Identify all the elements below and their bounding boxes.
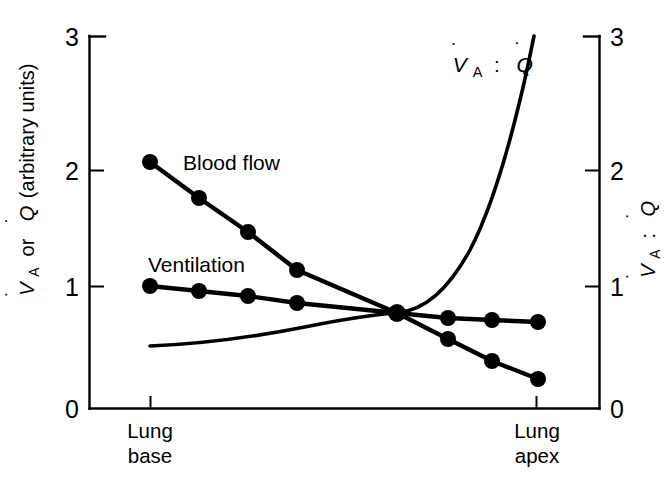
svg-text:˙ V A: ˙ V A : ˙ Q xyxy=(623,201,664,279)
blood-flow-point xyxy=(142,154,158,170)
right-tick-label-1: 1 xyxy=(610,273,624,301)
left-axis-ticks xyxy=(90,171,105,287)
ventilation-point xyxy=(440,310,456,326)
ventilation-point xyxy=(240,288,256,304)
left-tick-label-2: 2 xyxy=(65,157,79,185)
left-tick-label-3: 3 xyxy=(65,23,79,51)
blood-flow-point xyxy=(530,371,546,387)
curve-label-q: Q xyxy=(516,53,532,76)
right-tick-labels: 3 2 1 0 xyxy=(610,23,624,423)
x-label-lung-base-line1: Lung xyxy=(127,419,173,442)
x-axis-ticks xyxy=(151,396,537,409)
left-axis-title-v-sub: A xyxy=(26,267,42,277)
left-axis-title-connector: or xyxy=(16,233,38,262)
left-axis-title-q: Q xyxy=(16,206,38,222)
blood-flow-point xyxy=(240,224,256,240)
x-label-lung-apex-line2: apex xyxy=(515,444,560,467)
x-label-lung-apex-line1: Lung xyxy=(514,419,560,442)
ventilation-point xyxy=(191,283,207,299)
right-tick-label-2: 2 xyxy=(610,157,624,185)
svg-text:˙ V A: ˙ V A : ˙ Q xyxy=(451,38,533,81)
left-axis-title-units: (arbitrary units) xyxy=(16,64,38,198)
curve-label-colon: : xyxy=(488,53,506,76)
right-tick-label-0: 0 xyxy=(610,395,624,423)
ventilation-point xyxy=(289,295,305,311)
series-ventilation xyxy=(142,278,546,330)
blood-flow-point xyxy=(289,262,305,278)
curve-label-v: V xyxy=(453,53,469,76)
left-tick-label-1: 1 xyxy=(65,273,79,301)
ratio-curve-va-q xyxy=(150,36,534,346)
svg-text:˙ V A: ˙ V A or ˙ Q (arbitrary units) xyxy=(2,64,43,297)
left-tick-labels: 3 2 1 0 xyxy=(65,23,79,423)
ventilation-point xyxy=(484,312,500,328)
left-axis-title: ˙ V A or ˙ Q (arbitrary units) xyxy=(2,64,43,297)
left-tick-label-0: 0 xyxy=(65,395,79,423)
right-axis-ticks xyxy=(585,171,600,287)
curve-label-v-sub: A xyxy=(473,64,483,80)
x-category-labels: Lung base Lung apex xyxy=(127,419,560,467)
ventilation-point xyxy=(530,314,546,330)
left-axis-title-v: V xyxy=(16,281,38,296)
annotation-ratio-curve: ˙ V A : ˙ Q xyxy=(451,38,533,81)
right-axis-title-q: Q xyxy=(637,201,659,217)
right-axis-title-colon: : xyxy=(637,227,659,244)
x-label-lung-base-line2: base xyxy=(128,444,172,467)
ventilation-perfusion-chart: 3 2 1 0 3 2 1 0 Lung base Lung apex ˙ V … xyxy=(0,0,672,498)
annotation-blood-flow: Blood flow xyxy=(183,151,281,174)
figure-container: 3 2 1 0 3 2 1 0 Lung base Lung apex ˙ V … xyxy=(0,0,672,498)
annotation-ventilation: Ventilation xyxy=(148,253,245,276)
ventilation-point xyxy=(142,278,158,294)
right-axis-title-v-sub: A xyxy=(647,249,663,259)
blood-flow-point xyxy=(484,353,500,369)
blood-flow-point xyxy=(191,190,207,206)
right-tick-label-3: 3 xyxy=(610,23,624,51)
right-axis-title: ˙ V A : ˙ Q xyxy=(623,201,664,279)
blood-flow-point xyxy=(440,331,456,347)
right-axis-title-v: V xyxy=(637,263,659,278)
